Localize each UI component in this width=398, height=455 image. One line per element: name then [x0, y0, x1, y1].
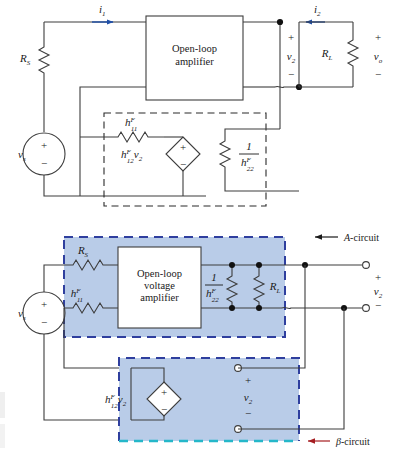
terminal-output-positive — [363, 262, 370, 269]
amplifier2-label-line3: amplifier — [140, 292, 179, 303]
h22F-numerator: 1 — [246, 140, 252, 152]
dep-source-minus: − — [180, 158, 186, 170]
terminal-output-negative — [363, 305, 370, 312]
amplifier-label-line1: Open-loop — [172, 43, 217, 54]
beta-v2-plus: + — [245, 374, 251, 386]
amplifier2-label-line2: voltage — [144, 280, 175, 291]
v2-minus: − — [288, 68, 294, 80]
dep-source-plus: + — [180, 141, 186, 153]
wire-hop-crossover-bottom — [282, 307, 362, 308]
beta-circuit-annotation-text: β-circuit — [335, 436, 370, 447]
h22F-numerator-bottom: 1 — [211, 271, 217, 283]
v2-plus: + — [288, 31, 294, 43]
source2-minus: − — [41, 316, 47, 328]
node-dot-output-top — [277, 19, 283, 25]
figure-container: Open-loop amplifier RS + − vs — [0, 0, 398, 455]
beta-v2-minus: − — [245, 407, 251, 419]
a-circuit-annotation-text: A-circuit — [343, 232, 379, 243]
dep-source2-plus: + — [161, 386, 167, 398]
node-dot-RL-bottom — [256, 305, 262, 311]
node-dot-h22-top — [229, 262, 235, 268]
vo-minus: − — [375, 68, 381, 80]
amplifier-label-line2: amplifier — [175, 56, 214, 67]
circuit-diagram-svg: Open-loop amplifier RS + − vs — [0, 0, 398, 455]
node-dot-h22-bottom — [229, 305, 235, 311]
v2-minus-bottom: − — [375, 299, 381, 311]
source-minus: − — [41, 157, 47, 169]
voltage-source-vs-bottom: + − — [23, 292, 65, 334]
source2-plus: + — [41, 298, 47, 310]
v2-plus-bottom: + — [375, 271, 381, 283]
vo-plus: + — [375, 31, 381, 43]
amplifier2-label-line1: Open-loop — [137, 268, 182, 279]
node-dot-RL-top — [256, 262, 262, 268]
dep-source2-minus: − — [161, 403, 167, 415]
source-plus: + — [41, 139, 47, 151]
voltage-source-vs: + − — [23, 133, 65, 175]
